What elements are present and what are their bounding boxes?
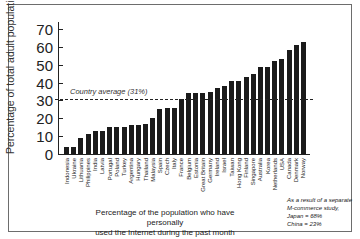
y-axis [58, 22, 59, 155]
category-label: Czech [164, 158, 170, 175]
bar-hungary [136, 125, 141, 154]
category-label: Great Britain [200, 158, 206, 192]
bar-italy [172, 108, 177, 154]
category-label: Italy [171, 158, 177, 169]
bar-netherlands [272, 61, 277, 154]
category-label: Germany [207, 158, 213, 183]
bar-canada [287, 50, 292, 154]
category-label: Canada [286, 158, 292, 179]
bar-taiwan [229, 81, 234, 154]
country-average-line [55, 99, 313, 100]
category-label: Turkey [121, 158, 127, 176]
y-tick-label: 60 [27, 40, 53, 55]
y-tick-label: 30 [27, 93, 53, 108]
x-axis [58, 154, 310, 155]
bar-belgium [186, 93, 191, 154]
category-label: Hungary [135, 158, 141, 181]
x-axis-label-line-2: used the Internet during the past month [80, 228, 250, 238]
y-tick-label: 10 [27, 129, 53, 144]
category-label: Denmark [293, 158, 299, 182]
y-tick [58, 65, 63, 66]
category-label: Australia [257, 158, 263, 181]
y-tick [58, 154, 63, 155]
y-tick [58, 47, 63, 48]
bar-turkey [122, 127, 127, 154]
y-tick-label: 0 [27, 147, 53, 162]
bar-portugal [107, 127, 112, 154]
bar-australia [258, 67, 263, 155]
category-label: Malaysia [150, 158, 156, 182]
category-label: Lithuania [78, 158, 84, 182]
y-tick-label: 40 [27, 76, 53, 91]
category-label: Estonia [193, 158, 199, 178]
footnote-line-2: M-commerce study, [287, 204, 352, 212]
category-label: Philippines [85, 158, 91, 187]
bar-great-britain [200, 93, 205, 154]
category-label: Argentina [128, 158, 134, 184]
y-axis-label: Percentage of total adult population [4, 0, 16, 154]
y-tick [58, 83, 63, 84]
bar-korea [265, 67, 270, 155]
bar-finland [244, 77, 249, 154]
bar-estonia [193, 93, 198, 154]
y-tick-label: 70 [27, 22, 53, 37]
x-axis-label: Percentage of the population who have pe… [80, 208, 250, 238]
bar-france [179, 99, 184, 154]
y-tick [58, 118, 63, 119]
bar-usa [279, 59, 284, 154]
category-label: Belgium [186, 158, 192, 180]
bar-hong-kong [236, 81, 241, 154]
category-label: Taiwan [229, 158, 235, 177]
bar-latvia [100, 131, 105, 154]
footnote-line-3: Japan = 68% [287, 212, 352, 220]
category-label: Hong Kong [236, 158, 242, 188]
bar-poland [114, 127, 119, 154]
category-label: Indonesia [64, 158, 70, 184]
y-tick-label: 50 [27, 58, 53, 73]
bar-argentina [129, 125, 134, 154]
footnote-line-1: As a result of a separate [287, 196, 352, 204]
category-label: Ireland [214, 158, 220, 176]
footnote: As a result of a separate M-commerce stu… [287, 196, 352, 228]
category-label: Thailand [143, 158, 149, 181]
bar-indonesia [64, 147, 69, 154]
bar-czech [165, 108, 170, 154]
bar-germany [208, 92, 213, 155]
country-average-label: Country average (31%) [70, 87, 148, 96]
y-tick [58, 100, 63, 101]
category-label: Portugal [107, 158, 113, 180]
bar-lithuania [78, 138, 83, 154]
bar-ukraine [71, 147, 76, 154]
x-axis-label-line-1: Percentage of the population who have pe… [80, 208, 250, 228]
category-label: Netherlands [272, 158, 278, 190]
bar-israel [222, 86, 227, 154]
category-label: Singapore [250, 158, 256, 185]
footnote-line-4: China = 23% [287, 220, 352, 228]
category-label: France [178, 158, 184, 177]
y-tick-label: 20 [27, 111, 53, 126]
bar-spain [157, 109, 162, 154]
bar-india [93, 131, 98, 154]
y-tick [58, 29, 63, 30]
category-label: Poland [114, 158, 120, 177]
bar-philippines [86, 134, 91, 154]
bar-thailand [143, 124, 148, 154]
bar-malaysia [150, 118, 155, 154]
category-label: Ukraine [71, 158, 77, 179]
y-tick [58, 136, 63, 137]
category-label: Finland [243, 158, 249, 178]
category-label: Israel [221, 158, 227, 173]
category-label: Korea [265, 158, 271, 174]
category-label: Norway [300, 158, 306, 178]
bar-singapore [251, 74, 256, 154]
category-label: Latvia [99, 158, 105, 174]
category-label: Spain [157, 158, 163, 173]
category-label: USA [279, 158, 285, 170]
category-label: India [92, 158, 98, 171]
